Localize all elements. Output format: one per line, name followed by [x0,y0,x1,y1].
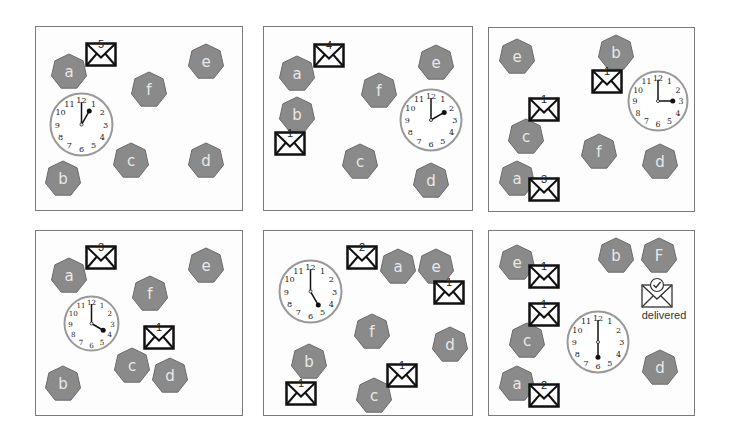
svg-text:10: 10 [55,107,65,117]
svg-text:10: 10 [633,86,643,95]
envelope-icon: 1 [143,325,175,350]
svg-text:2: 2 [675,86,680,95]
node-label: f [360,72,398,110]
node-label: a [50,257,88,295]
svg-text:10: 10 [69,309,79,318]
svg-text:3: 3 [332,287,337,297]
envelope-count: 1 [528,298,560,310]
delivered-label: delivered [634,309,694,321]
clock-icon: 121234567891011 [63,295,120,352]
svg-text:1: 1 [667,77,672,86]
clock-icon: 121234567891011 [566,310,630,374]
node-label: a [379,248,417,286]
node-label: b [290,343,328,381]
envelope-icon: 3 [528,177,560,202]
clock-icon: 121234567891011 [49,92,114,157]
envelope-count: 1 [528,93,560,105]
node-e: e [187,247,225,285]
node-b: b [290,343,328,381]
envelope-icon: 2 [346,245,378,270]
node-c: c [113,347,151,385]
delivered-envelope-icon [640,277,674,311]
node-d: d [641,143,679,181]
envelope-count: 1 [274,127,306,139]
node-e: e [187,43,225,81]
node-f: f [131,275,169,313]
svg-text:7: 7 [584,359,589,368]
svg-text:5: 5 [320,307,325,317]
node-a: a [50,257,88,295]
node-label: c [507,118,545,156]
svg-text:8: 8 [636,109,641,118]
envelope-icon: 4 [313,43,345,68]
svg-text:3: 3 [679,97,684,106]
svg-text:7: 7 [79,338,84,347]
envelope-icon: 2 [528,383,560,408]
svg-text:2: 2 [107,309,112,318]
svg-text:11: 11 [642,77,652,86]
svg-text:2: 2 [100,107,105,117]
envelope-icon: 1 [433,280,465,305]
envelope-count: 1 [433,276,465,288]
node-b: b [44,160,82,198]
node-b: b [597,237,635,275]
envelope-icon: 5 [85,42,117,67]
svg-text:6: 6 [656,120,661,129]
svg-text:7: 7 [67,140,72,150]
svg-text:4: 4 [616,350,621,359]
node-label: d [412,162,450,200]
node-label: b [44,160,82,198]
svg-text:9: 9 [633,97,638,106]
node-f: f [353,313,391,351]
node-label: b [597,237,635,275]
svg-text:3: 3 [103,120,108,130]
node-d: d [151,357,189,395]
node-c: c [341,143,379,181]
node-label: c [508,322,546,360]
svg-text:4: 4 [675,109,680,118]
node-label: c [341,143,379,181]
svg-text:4: 4 [449,128,454,137]
clock-icon: 121234567891011 [399,88,463,152]
node-label: F [640,237,678,275]
svg-text:5: 5 [607,359,612,368]
node-label: d [641,349,679,387]
envelope-count: 1 [386,359,418,371]
envelope-count: 1 [143,321,175,333]
svg-text:6: 6 [79,144,84,154]
svg-text:11: 11 [293,266,303,276]
node-label: f [131,275,169,313]
node-label: f [580,133,618,171]
svg-text:1: 1 [91,99,96,109]
svg-text:7: 7 [644,117,649,126]
node-d: d [187,142,225,180]
node-label: d [151,357,189,395]
node-f: F [640,237,678,275]
svg-text:5: 5 [667,117,672,126]
node-e: e [417,44,455,82]
node-label: e [187,43,225,81]
node-f: f [130,71,168,109]
svg-text:8: 8 [287,299,292,309]
node-label: c [113,347,151,385]
node-b: b [44,365,82,403]
clock-icon: 121234567891011 [278,259,343,324]
node-label: b [44,365,82,403]
envelope-count: 3 [85,241,117,253]
envelope-icon: 1 [591,69,623,94]
svg-text:8: 8 [575,350,580,359]
svg-text:2: 2 [616,326,621,335]
svg-text:3: 3 [619,338,624,347]
svg-text:11: 11 [414,95,424,104]
svg-text:8: 8 [71,330,76,339]
node-label: d [431,326,469,364]
svg-text:2: 2 [329,274,334,284]
node-label: d [187,142,225,180]
svg-text:1: 1 [607,317,612,326]
node-c: c [112,142,150,180]
node-f: f [580,133,618,171]
svg-text:10: 10 [572,326,582,335]
svg-text:3: 3 [110,320,115,329]
svg-text:6: 6 [428,140,433,149]
node-label: a [278,55,316,93]
